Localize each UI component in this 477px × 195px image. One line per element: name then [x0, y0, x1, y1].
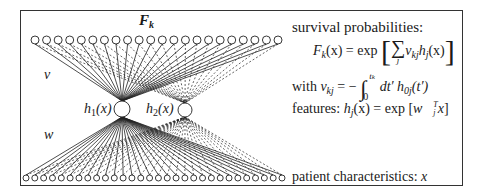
hidden-node-label-h2: h2(x)	[146, 102, 174, 118]
lower-weights-label: w	[44, 128, 53, 142]
integral-upper: tk	[369, 72, 375, 81]
edge-w-h1	[122, 117, 123, 175]
edge-w-h2	[26, 117, 185, 175]
output-label-Fk: Fk	[139, 13, 154, 30]
term-h: h	[419, 43, 426, 58]
formula-F-lhs: (x) = exp	[326, 43, 377, 58]
output-node	[100, 36, 108, 44]
input-node	[244, 175, 250, 181]
term-argument: (x)	[428, 43, 444, 58]
output-node	[239, 36, 247, 44]
input-node	[208, 175, 214, 181]
formula-F: Fk(x) = exp [∑jvkjhj(x)]	[313, 36, 455, 66]
output-node	[112, 36, 120, 44]
input-node	[67, 175, 73, 181]
with-line: with vkj = − ∫tk0 dt′ h0j(t′)	[292, 78, 428, 100]
edge-v-h2	[185, 44, 278, 103]
output-node	[216, 36, 224, 44]
with-equals: = −	[334, 79, 357, 94]
input-node	[155, 175, 161, 181]
input-node	[102, 175, 108, 181]
output-node	[54, 36, 62, 44]
edge-w-h2	[52, 117, 185, 175]
h2-symbol: h	[146, 101, 153, 116]
input-node	[41, 175, 47, 181]
edge-w-h1	[122, 117, 256, 175]
input-node	[200, 175, 206, 181]
patient-line: patient characteristics: x	[292, 170, 427, 184]
input-node	[235, 175, 241, 181]
edge-w-h1	[122, 117, 282, 175]
term-v-subscript: kj	[411, 49, 418, 60]
output-node	[274, 36, 282, 44]
input-node	[76, 175, 82, 181]
input-node	[279, 175, 285, 181]
edge-w-h2	[185, 117, 229, 175]
edge-v-h1	[122, 44, 197, 101]
upper-weights-label: ν	[44, 68, 50, 82]
input-node	[58, 175, 64, 181]
input-node	[217, 175, 223, 181]
integrand: dt′ h	[376, 79, 404, 94]
input-node	[261, 175, 267, 181]
output-node	[262, 36, 270, 44]
patient-variable: x	[421, 169, 427, 184]
edge-v-h2	[70, 44, 185, 103]
features-w-vector: w⃗	[413, 101, 433, 116]
with-word: with	[292, 79, 320, 94]
output-node	[193, 36, 201, 44]
integral-upper-sub: k	[372, 73, 375, 81]
integrand-arg: (t′)	[412, 79, 428, 94]
edge-w-h1	[61, 117, 122, 175]
output-node	[89, 36, 97, 44]
input-node	[32, 175, 38, 181]
output-node	[181, 36, 189, 44]
patient-label: patient characteristics:	[292, 169, 421, 184]
input-node	[191, 175, 197, 181]
input-node	[173, 175, 179, 181]
edge-w-h1	[52, 117, 122, 175]
output-node	[135, 36, 143, 44]
sum-block: ∑j	[391, 38, 405, 65]
edge-w-h2	[185, 117, 247, 175]
input-node	[270, 175, 276, 181]
input-node	[120, 175, 126, 181]
output-node	[147, 36, 155, 44]
Fk-subscript: k	[149, 19, 154, 30]
input-node	[182, 175, 188, 181]
features-label: features:	[292, 101, 344, 116]
input-node	[253, 175, 259, 181]
output-node	[124, 36, 132, 44]
input-node	[129, 175, 135, 181]
output-node	[43, 36, 51, 44]
edge-w-h1	[88, 117, 122, 175]
features-arg: (x) = exp [	[353, 101, 413, 116]
output-node	[158, 36, 166, 44]
input-node	[49, 175, 55, 181]
output-node	[31, 36, 39, 44]
right-bracket: ]	[445, 34, 455, 67]
input-node	[111, 175, 117, 181]
with-v-subscript: kj	[327, 85, 334, 96]
h1-symbol: h	[84, 101, 91, 116]
edge-v-h1	[122, 44, 243, 101]
input-node	[226, 175, 232, 181]
survival-heading: survival probabilities:	[292, 20, 423, 35]
edge-v-h2	[104, 44, 185, 103]
integral-block: ∫tk0	[360, 78, 376, 100]
input-node	[164, 175, 170, 181]
left-bracket: [	[381, 34, 391, 67]
input-node	[94, 175, 100, 181]
Fk-symbol: F	[139, 12, 149, 28]
output-node	[170, 36, 178, 44]
input-node	[23, 175, 29, 181]
output-node	[228, 36, 236, 44]
edge-w-h1	[122, 117, 264, 175]
integrand-subscript: 0j	[404, 85, 412, 96]
output-node	[251, 36, 259, 44]
input-node	[138, 175, 144, 181]
input-node	[147, 175, 153, 181]
output-node	[205, 36, 213, 44]
h2-argument: (x)	[158, 101, 174, 116]
features-h: h	[344, 101, 351, 116]
